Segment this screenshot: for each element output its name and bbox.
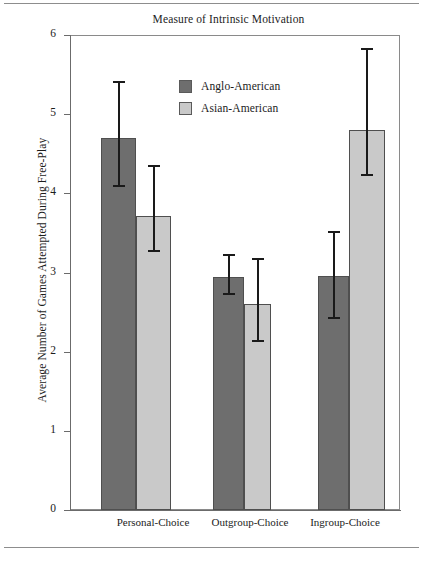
y-axis-tick-label: 0 — [10, 503, 56, 515]
error-bar-stem — [228, 254, 230, 293]
y-axis-tick-label: 3 — [10, 266, 56, 278]
page-rule-top — [4, 3, 419, 4]
error-bar-cap-upper — [361, 48, 373, 50]
y-axis-tick — [64, 193, 71, 194]
y-axis-tick-label: 6 — [10, 28, 56, 40]
error-bar-cap-lower — [113, 185, 125, 187]
legend: Anglo-AmericanAsian-American — [179, 75, 280, 119]
y-axis-tick-label: 2 — [10, 345, 56, 357]
error-bar-stem — [153, 165, 155, 251]
error-bar-cap-lower — [223, 293, 235, 295]
y-axis-tick — [64, 35, 71, 36]
y-axis-tick — [64, 431, 71, 432]
chart-title: Measure of Intrinsic Motivation — [56, 13, 401, 25]
x-axis-line — [70, 510, 401, 511]
error-bar-cap-upper — [148, 165, 160, 167]
y-axis-tick — [64, 114, 71, 115]
error-bar-stem — [257, 258, 259, 340]
y-axis-tick — [64, 352, 71, 353]
legend-label: Anglo-American — [201, 80, 280, 92]
error-bar-stem — [366, 48, 368, 174]
bar — [136, 216, 171, 511]
legend-swatch-icon — [179, 80, 192, 93]
bar — [213, 277, 244, 510]
y-axis-tick-label: 1 — [10, 424, 56, 436]
y-axis-tick — [64, 510, 71, 511]
error-bar-stem — [118, 81, 120, 186]
x-axis-tick-label: Ingroup-Choice — [285, 516, 405, 528]
error-bar-cap-lower — [148, 250, 160, 252]
error-bar-cap-lower — [361, 174, 373, 176]
y-axis-title: Average Number of Games Attempted During… — [36, 60, 48, 480]
legend-label: Asian-American — [201, 102, 278, 114]
error-bar-stem — [333, 231, 335, 317]
error-bar-cap-upper — [328, 231, 340, 233]
y-axis-tick-label: 5 — [10, 107, 56, 119]
error-bar-cap-upper — [223, 254, 235, 256]
legend-item: Asian-American — [179, 97, 280, 119]
bar — [101, 138, 136, 510]
legend-swatch-icon — [179, 102, 192, 115]
y-axis-tick — [64, 273, 71, 274]
y-axis-tick-label: 4 — [10, 186, 56, 198]
bar — [349, 130, 385, 510]
error-bar-cap-lower — [328, 317, 340, 319]
page-rule-bottom — [4, 547, 419, 548]
error-bar-cap-lower — [252, 340, 264, 342]
error-bar-cap-upper — [252, 258, 264, 260]
error-bar-cap-upper — [113, 81, 125, 83]
chart-figure: Measure of Intrinsic Motivation 0123456 … — [0, 0, 423, 562]
legend-item: Anglo-American — [179, 75, 280, 97]
